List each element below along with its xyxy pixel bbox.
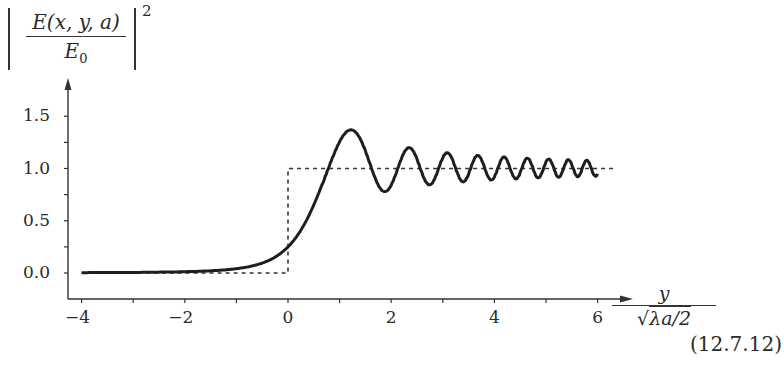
abs-bar-left (8, 8, 10, 70)
diffraction-intensity-curve (82, 130, 598, 273)
x-tick-label: 0 (268, 307, 308, 327)
x-tick-label: −2 (161, 307, 201, 327)
equation-number: (12.7.12) (690, 332, 782, 356)
x-tick-label: −4 (58, 307, 98, 327)
x-axis-label: y √λa/2 (612, 282, 716, 329)
y-tick-label: 1.5 (0, 105, 50, 125)
x-axis-numerator: y (612, 282, 716, 306)
denominator-subscript: 0 (79, 51, 87, 66)
y-tick-label: 0.0 (0, 262, 50, 282)
axes (64, 78, 633, 303)
y-axis-denominator: E0 (26, 37, 126, 66)
y-axis-fraction: E(x, y, a) E0 (26, 10, 126, 66)
denominator-symbol: E (65, 39, 80, 63)
y-tick-label: 0.5 (0, 210, 50, 230)
x-tick-label: 2 (371, 307, 411, 327)
y-axis-exponent: 2 (142, 2, 152, 20)
x-axis-denominator: √λa/2 (612, 306, 716, 329)
y-axis-arrow-icon (65, 78, 72, 90)
x-tick-label: 4 (474, 307, 514, 327)
y-axis-numerator: E(x, y, a) (26, 10, 126, 37)
step-function-dashed-line (82, 169, 614, 274)
y-tick-label: 1.0 (0, 158, 50, 178)
abs-bar-right (134, 8, 136, 70)
